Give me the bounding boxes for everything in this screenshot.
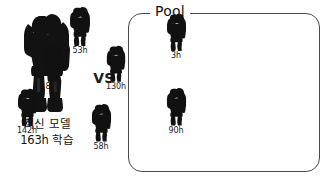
pool-member-label: 58h (78, 142, 124, 152)
robot-silhouette-icon (67, 6, 93, 46)
pool-member: 3h (153, 13, 199, 61)
pool-member-label: 130h (93, 82, 139, 92)
pool-member-label: 3h (153, 51, 199, 61)
pool-member: 87h (30, 45, 76, 92)
robot-silhouette-icon (164, 87, 189, 126)
robot-silhouette-icon (104, 45, 128, 82)
pool-member-label: 142h (4, 126, 50, 136)
comparison-diagram: 최신 모델 163h 학습 VS Pool 53h3h87h130h142h58… (0, 0, 328, 187)
pool-member: 142h (4, 88, 50, 136)
robot-silhouette-icon (89, 103, 114, 142)
pool-member-label: 90h (153, 126, 199, 136)
robot-silhouette-icon (164, 13, 189, 51)
pool-member: 90h (153, 87, 199, 136)
robot-silhouette-icon (41, 45, 65, 82)
robot-silhouette-icon (15, 88, 40, 126)
pool-member: 58h (78, 103, 124, 152)
pool-member: 130h (93, 45, 139, 92)
